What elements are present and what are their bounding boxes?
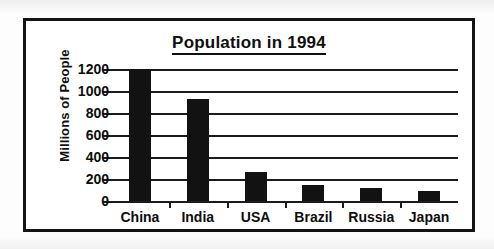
y-tick-label: 800 <box>49 106 109 120</box>
bar <box>187 99 209 201</box>
y-tick-label: 1000 <box>49 84 109 98</box>
bar <box>360 188 382 201</box>
chart-figure: Population in 1994 Millions of People 02… <box>23 18 475 232</box>
x-tick-label: China <box>111 210 169 224</box>
y-tick-label: 200 <box>49 172 109 186</box>
x-tick-label: India <box>169 210 227 224</box>
chart-title: Population in 1994 <box>26 33 472 53</box>
bar-slot <box>285 69 343 201</box>
bar-series <box>111 69 458 201</box>
x-tick-mark <box>400 201 402 208</box>
bar <box>245 172 267 201</box>
x-tick-mark <box>285 201 287 208</box>
y-tick-label: 600 <box>49 128 109 142</box>
bar-slot <box>169 69 227 201</box>
x-tick-label: Brazil <box>285 210 343 224</box>
bar <box>418 191 440 201</box>
bar-slot <box>342 69 400 201</box>
x-tick-label: Japan <box>400 210 458 224</box>
y-tick-label: 1200 <box>49 62 109 76</box>
chart-title-text: Population in 1994 <box>172 33 326 55</box>
x-tick-label: USA <box>227 210 285 224</box>
bar-slot <box>227 69 285 201</box>
x-tick-mark <box>169 201 171 208</box>
bar-slot <box>400 69 458 201</box>
y-tick-label: 400 <box>49 150 109 164</box>
bar <box>129 69 151 201</box>
y-tick-label: 0 <box>49 194 109 208</box>
x-tick-label: Russia <box>342 210 400 224</box>
bar <box>302 185 324 202</box>
bar-slot <box>111 69 169 201</box>
x-tick-mark <box>342 201 344 208</box>
x-tick-mark <box>227 201 229 208</box>
plot-area: 020040060080010001200 ChinaIndiaUSABrazi… <box>111 69 458 201</box>
